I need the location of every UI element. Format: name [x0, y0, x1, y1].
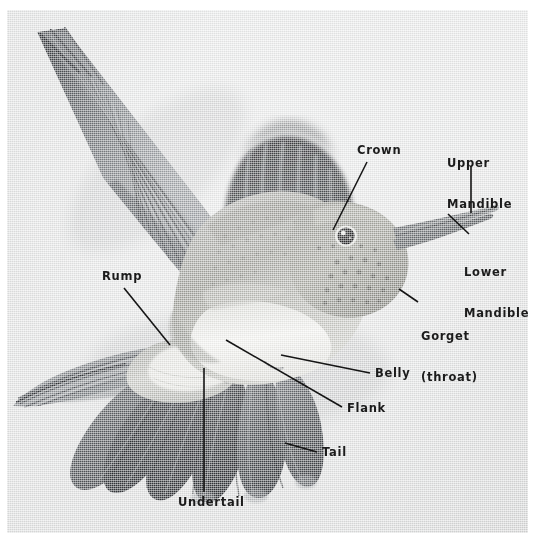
bird-eye [335, 226, 357, 247]
label-upper-mandible: Upper Mandible [447, 130, 512, 238]
label-belly: Belly [375, 367, 410, 381]
label-flank: Flank [347, 402, 386, 416]
bird-illustration [7, 10, 528, 533]
label-undertail: Undertail [178, 496, 245, 510]
hummingbird-anatomy-figure: Crown Upper Mandible Lower Mandible Gorg… [0, 0, 537, 547]
bird-head [289, 201, 408, 317]
label-tail: Tail [322, 446, 347, 460]
label-lower-mandible-line1: Lower [464, 266, 529, 280]
label-upper-mandible-line1: Upper [447, 157, 512, 171]
label-crown: Crown [357, 144, 401, 158]
label-rump: Rump [102, 270, 142, 284]
label-upper-mandible-line2: Mandible [447, 198, 512, 212]
label-gorget-line2: (throat) [421, 371, 478, 385]
hummingbird-photograph [7, 10, 528, 533]
label-gorget-throat: Gorget (throat) [421, 303, 478, 411]
label-gorget-line1: Gorget [421, 330, 478, 344]
